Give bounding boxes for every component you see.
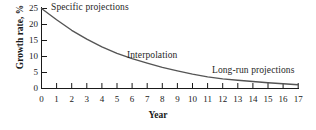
x-axis-title: Year [0,110,316,120]
x-tick-label-17: 17 [289,95,307,104]
y-tick-label-0: 0 [20,84,38,93]
growth-rate-chart: 25 20 15 10 5 0 0 1 2 3 4 5 6 7 8 9 10 1… [0,0,316,130]
y-axis-ticks [42,9,48,89]
annotation-specific-projections: Specific projections [51,2,129,12]
y-axis-title: Growth rate, % [15,0,25,78]
annotation-interpolation: Interpolation [127,50,177,60]
x-axis-ticks [42,83,299,89]
annotation-long-run-projections: Long-run projections [212,65,294,75]
